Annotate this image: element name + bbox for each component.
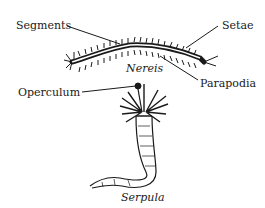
parapodia-leader <box>160 56 198 80</box>
label-setae: Setae <box>222 20 254 31</box>
label-serpula: Serpula <box>121 192 165 203</box>
segments-leader <box>67 26 120 44</box>
leader-lines <box>67 26 218 92</box>
label-nereis: Nereis <box>126 63 163 74</box>
setae-leader <box>186 26 218 48</box>
operculum-leader <box>82 86 136 92</box>
serpula-worm <box>90 83 168 188</box>
annelid-diagram: Segments Setae Nereis Parapodia Operculu… <box>0 0 265 208</box>
label-operculum: Operculum <box>18 87 80 98</box>
label-parapodia: Parapodia <box>200 78 256 89</box>
label-segments: Segments <box>16 20 71 31</box>
